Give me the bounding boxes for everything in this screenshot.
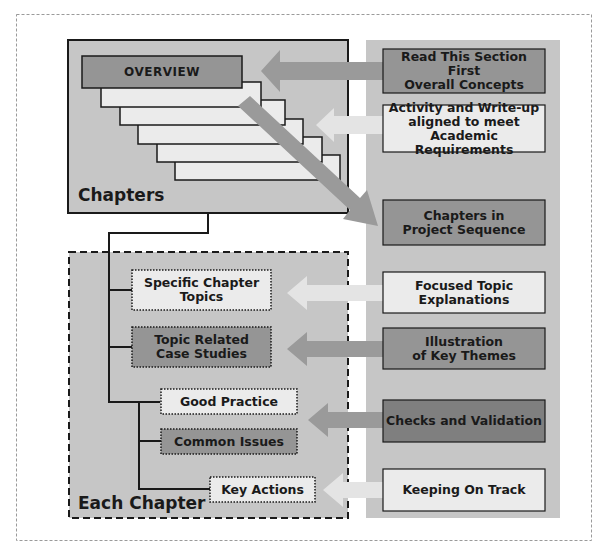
label-case-studies: Topic Related Case Studies bbox=[132, 327, 271, 367]
label-good-practice: Good Practice bbox=[161, 389, 297, 414]
label-key-actions: Key Actions bbox=[210, 477, 315, 502]
label-project-sequence: Chapters in Project Sequence bbox=[383, 200, 545, 245]
label-key-themes: Illustration of Key Themes bbox=[383, 328, 545, 369]
label-common-issues: Common Issues bbox=[161, 429, 297, 454]
overview-label: OVERVIEW bbox=[82, 56, 242, 88]
chapters-group-title: Chapters bbox=[78, 185, 164, 205]
label-checks: Checks and Validation bbox=[383, 400, 545, 442]
label-focused-topics: Focused Topic Explanations bbox=[383, 272, 545, 313]
label-read-first: Read This Section First Overall Concepts bbox=[383, 49, 545, 93]
label-activity: Activity and Write-up aligned to meet Ac… bbox=[383, 105, 545, 152]
label-specific-topics: Specific Chapter Topics bbox=[132, 270, 271, 310]
label-keeping-on-track: Keeping On Track bbox=[383, 469, 545, 511]
each-chapter-group-title: Each Chapter bbox=[78, 493, 205, 513]
